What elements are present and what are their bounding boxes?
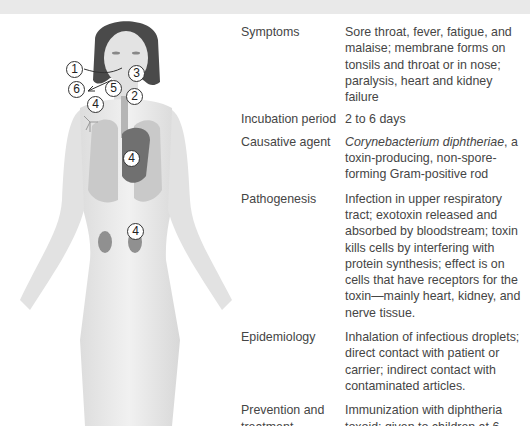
marker-4-lymph: 4 (87, 96, 104, 113)
value-incubation: 2 to 6 days (345, 111, 526, 127)
marker-5: 5 (105, 80, 122, 97)
row-causative-agent: Causative agent Corynebacterium diphther… (241, 134, 526, 183)
disease-info-table: Symptoms Sore throat, fever, fatigue, an… (241, 24, 526, 426)
top-band (0, 0, 530, 14)
label-prevention: Prevention and treatment (241, 402, 345, 426)
row-symptoms: Symptoms Sore throat, fever, fatigue, an… (241, 24, 526, 105)
label-symptoms: Symptoms (241, 24, 345, 105)
body-figure-icon (0, 14, 240, 426)
value-epidemiology: Inhalation of infectious droplets; direc… (345, 329, 526, 394)
marker-4-heart: 4 (123, 150, 140, 167)
label-incubation: Incubation period (241, 111, 345, 127)
marker-6: 6 (68, 81, 85, 98)
row-prevention: Prevention and treatment Immunization wi… (241, 402, 526, 426)
human-body-illustration: 1 3 6 5 2 4 4 4 (0, 14, 240, 426)
label-epidemiology: Epidemiology (241, 329, 345, 394)
value-symptoms: Sore throat, fever, fatigue, and malaise… (345, 24, 526, 105)
value-prevention: Immunization with diphtheria toxoid; giv… (345, 402, 526, 426)
marker-2: 2 (126, 88, 143, 105)
value-pathogenesis: Infection in upper respiratory tract; ex… (345, 191, 526, 321)
marker-4-kidney: 4 (127, 223, 144, 240)
organism-name: Corynebacterium diphtheriae (345, 135, 504, 149)
marker-3: 3 (128, 65, 145, 82)
row-incubation: Incubation period 2 to 6 days (241, 111, 526, 127)
row-pathogenesis: Pathogenesis Infection in upper respirat… (241, 191, 526, 321)
row-epidemiology: Epidemiology Inhalation of infectious dr… (241, 329, 526, 394)
marker-1: 1 (66, 61, 83, 78)
value-causative-agent: Corynebacterium diphtheriae, a toxin-pro… (345, 134, 526, 183)
label-causative-agent: Causative agent (241, 134, 345, 183)
label-pathogenesis: Pathogenesis (241, 191, 345, 321)
